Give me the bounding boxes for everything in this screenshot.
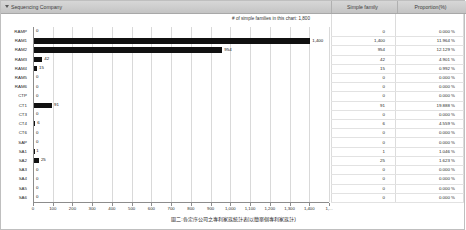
row-separator [331, 202, 464, 203]
cell-proportion: 0.000 % [397, 91, 459, 100]
cell-proportion: 0.000 % [397, 110, 459, 119]
cell-simple-family: 0 [331, 110, 389, 119]
sort-descending-icon[interactable] [5, 5, 9, 8]
category-label: RAM1 [1, 36, 30, 45]
bar-value-label: 0 [36, 93, 38, 100]
cell-simple-family: 6 [331, 119, 389, 128]
cell-simple-family: 0 [331, 174, 389, 183]
cell-proportion: 0.000 % [397, 128, 459, 137]
category-label: RAMP [1, 27, 30, 36]
table-row[interactable]: RAM5000.000 % [1, 73, 466, 82]
bar[interactable] [34, 158, 39, 163]
category-label: CT1 [1, 101, 30, 110]
cell-proportion: 0.000 % [397, 27, 459, 36]
cell-proportion: 0.000 % [397, 82, 459, 91]
category-label: SA1 [1, 147, 30, 156]
bar-value-label: 0 [36, 28, 38, 35]
cell-simple-family: 954 [331, 45, 389, 54]
cell-proportion: 4.559 % [397, 119, 459, 128]
bar-value-label: 6 [37, 120, 39, 127]
table-row[interactable]: RAM11,4001,40011.964 % [1, 36, 466, 45]
category-label: RAM5 [1, 73, 30, 82]
cell-simple-family: 0 [331, 165, 389, 174]
column-header-simple-family[interactable]: Simple family [331, 1, 393, 13]
bar-value-label: 42 [44, 56, 49, 63]
bar-value-label: 1 [36, 148, 38, 155]
bar-value-label: 0 [36, 185, 38, 192]
bar[interactable] [34, 66, 37, 71]
table-row[interactable]: RAM342424.901 % [1, 55, 466, 64]
x-axis-line [33, 202, 329, 203]
cell-simple-family: 91 [331, 101, 389, 110]
bar-value-label: 0 [36, 176, 38, 183]
figure-caption: 圖二:各定序公司之專利家族統計表(以簡單個專利家族計) [1, 215, 466, 222]
bar[interactable] [34, 47, 222, 52]
table-header: Sequencing Company Simple family Proport… [1, 1, 466, 14]
cell-simple-family: 0 [331, 73, 389, 82]
table-row[interactable]: CTP000.000 % [1, 91, 466, 100]
category-label: SA6 [1, 193, 30, 202]
table-row[interactable]: SA1111.046 % [1, 147, 466, 156]
cell-proportion: 19.888 % [397, 101, 459, 110]
bar-value-label: 1,400 [312, 38, 323, 45]
cell-simple-family: 25 [331, 156, 389, 165]
cell-proportion: 0.000 % [397, 174, 459, 183]
bar-value-label: 0 [36, 74, 38, 81]
table-row[interactable]: RAM415150.992 % [1, 64, 466, 73]
column-header-proportion[interactable]: Proportion(%) [397, 1, 463, 13]
category-label: SAP [1, 138, 30, 147]
bar-value-label: 0 [36, 130, 38, 137]
category-label: SA4 [1, 174, 30, 183]
cell-simple-family: 0 [331, 193, 389, 202]
bar-value-label: 0 [36, 194, 38, 201]
cell-proportion: 4.901 % [397, 55, 459, 64]
table-row[interactable]: CT3000.000 % [1, 110, 466, 119]
table-row[interactable]: RAM6000.000 % [1, 82, 466, 91]
table-row[interactable]: CT4664.559 % [1, 119, 466, 128]
category-label: RAM3 [1, 55, 30, 64]
table-row[interactable]: SAP000.000 % [1, 138, 466, 147]
bar[interactable] [34, 103, 52, 108]
cell-proportion: 1.046 % [397, 147, 459, 156]
cell-proportion: 12.129 % [397, 45, 459, 54]
bar[interactable] [34, 121, 35, 126]
cell-simple-family: 0 [331, 91, 389, 100]
cell-simple-family: 0 [331, 27, 389, 36]
table-row[interactable]: RAMP000.000 % [1, 27, 466, 36]
x-axis-tick-label: 1,... [317, 206, 341, 211]
cell-proportion: 0.000 % [397, 73, 459, 82]
table-row[interactable]: SA3000.000 % [1, 165, 466, 174]
table-row[interactable]: CT6000.000 % [1, 128, 466, 137]
bar-value-label: 0 [36, 139, 38, 146]
table-row[interactable]: RAM295495412.129 % [1, 45, 466, 54]
cell-proportion: 0.000 % [397, 165, 459, 174]
category-label: CT3 [1, 110, 30, 119]
cell-simple-family: 0 [331, 82, 389, 91]
table-row[interactable]: SA4000.000 % [1, 174, 466, 183]
cell-simple-family: 0 [331, 184, 389, 193]
bar-value-label: 954 [224, 47, 231, 54]
category-label: RAM4 [1, 64, 30, 73]
category-label: RAM6 [1, 82, 30, 91]
cell-simple-family: 0 [331, 128, 389, 137]
cell-proportion: 0.000 % [397, 184, 459, 193]
bar-value-label: 0 [36, 167, 38, 174]
bar-value-label: 15 [39, 65, 44, 72]
table-row[interactable]: SA225251.623 % [1, 156, 466, 165]
column-header-sequencing-company[interactable]: Sequencing Company [11, 1, 161, 13]
bar-value-label: 0 [36, 84, 38, 91]
cell-proportion: 11.964 % [397, 36, 459, 45]
category-label: RAM2 [1, 45, 30, 54]
bar[interactable] [34, 57, 42, 62]
bar[interactable] [34, 38, 310, 43]
table-row[interactable]: SA6000.000 % [1, 193, 466, 202]
bar-value-label: 0 [36, 111, 38, 118]
cell-simple-family: 15 [331, 64, 389, 73]
cell-simple-family: 42 [331, 55, 389, 64]
bar-value-label: 25 [41, 157, 46, 164]
table-row[interactable]: SA5000.000 % [1, 184, 466, 193]
table-row[interactable]: CT1919119.888 % [1, 101, 466, 110]
category-label: SA2 [1, 156, 30, 165]
cell-proportion: 0.992 % [397, 64, 459, 73]
bar-value-label: 91 [54, 102, 59, 109]
